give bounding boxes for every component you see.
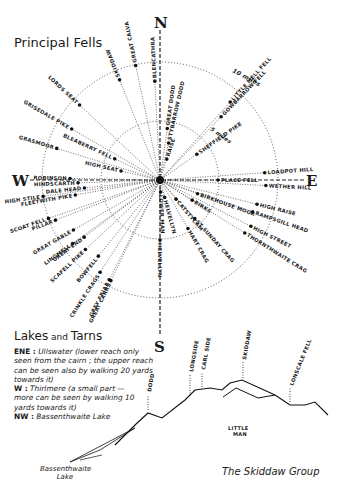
sight-line: [73, 180, 160, 243]
fell-summit-dot: [186, 227, 190, 231]
fell-label: BIRKS: [193, 199, 212, 214]
lake-entry-nw: NW : Bassenthwaite Lake: [14, 412, 154, 421]
sight-line: [98, 180, 160, 256]
little-man-profile: [223, 388, 275, 398]
fell-summit-dot: [158, 238, 162, 242]
sight-line: [84, 180, 160, 237]
fell-summit-dot: [119, 169, 123, 173]
fell-summit-dot: [190, 198, 194, 202]
fell-summit-dot: [84, 248, 88, 252]
summit-cairn: [156, 176, 164, 184]
fell-label: GRASMOOR: [18, 134, 55, 150]
profile-peak-skiddaw: SKIDDAW: [241, 330, 252, 360]
fell-summit-dot: [159, 190, 163, 194]
compass-north: N: [154, 14, 168, 32]
fell-label: ROBINSON: [33, 175, 67, 182]
fell-summit-dot: [76, 181, 80, 185]
fell-summit-dot: [196, 192, 200, 196]
bassenthwaite-lake-arrow: [80, 455, 102, 460]
bassenthwaite-lake-label: Bassenthwaite Lake: [40, 465, 90, 481]
fell-summit-dot: [255, 202, 259, 206]
lake-entry-ene: ENE : Ullswater (lower reach only seen f…: [14, 347, 154, 384]
sight-line: [75, 180, 160, 195]
sight-line: [111, 180, 160, 281]
fell-label: ST SUNDAY CRAG: [195, 219, 236, 264]
fell-label: BLEABERRY FELL: [62, 132, 113, 160]
fell-summit-dot: [174, 197, 178, 201]
fell-summit-dot: [68, 177, 72, 181]
fell-summit-dot: [54, 218, 58, 222]
fell-summit-dot: [216, 178, 220, 182]
compass-west: W: [11, 172, 30, 190]
fell-diagram: SKIDDAWGREAT CALVABLENCATHRAGREAT DODDST…: [0, 0, 351, 499]
sight-line: [136, 66, 160, 180]
fell-summit-dot: [251, 210, 255, 214]
fell-label: HIGH SEAT: [85, 160, 119, 173]
fell-label: GREAT CALVA: [123, 21, 138, 63]
fell-summit-dot: [153, 79, 157, 83]
fell-label: SKIDDAW: [104, 48, 121, 78]
fell-summit-dot: [134, 64, 138, 68]
fell-label: PLACE FELL: [221, 177, 258, 183]
fell-summit-dot: [74, 193, 78, 197]
sight-line: [120, 80, 160, 180]
profile-peak-lonscale-fell: LONSCALE FELL: [288, 338, 312, 387]
fell-summit-dot: [82, 235, 86, 239]
sight-line: [155, 81, 160, 180]
profile-peak-longside: LONGSIDE: [188, 339, 200, 372]
fell-summit-dot: [78, 103, 82, 107]
compass-south: S: [154, 338, 165, 356]
page-title: Principal Fells: [14, 35, 103, 50]
fell-summit-dot: [264, 184, 268, 188]
fell-summit-dot: [113, 157, 117, 161]
fell-summit-dot: [72, 228, 76, 232]
fell-summit-dot: [107, 278, 111, 282]
bassenthwaite-lake-shape: [70, 428, 135, 462]
sight-line: [85, 180, 160, 250]
fell-summit-dot: [193, 217, 197, 221]
fell-summit-dot: [55, 147, 59, 151]
fell-summit-dot: [71, 242, 75, 246]
fell-label: GRISEDALE PIKE: [23, 99, 71, 130]
fell-summit-dot: [243, 231, 247, 235]
lake-entry-w: W : Thirlmere (a small part — more can b…: [14, 384, 144, 412]
fell-summit-dot: [118, 78, 122, 82]
profile-peak-carl-side: CARL SIDE: [200, 336, 212, 370]
lakes-heading: Lakes and Tarns: [14, 329, 102, 343]
profile-title: The Skiddaw Group: [222, 466, 320, 477]
fell-label: BIRKHOUSE MOOR: [199, 192, 256, 218]
fell-summit-dot: [195, 152, 199, 156]
fell-label: LOWER MAN: [158, 195, 166, 234]
fell-summit-dot: [70, 127, 74, 131]
sight-line: [80, 105, 160, 180]
fell-summit-dot: [263, 171, 267, 175]
fell-label: HELVELLYN: [157, 243, 163, 278]
compass-east: E: [306, 172, 317, 190]
fell-summit-dot: [83, 186, 87, 190]
fell-summit-dot: [165, 157, 169, 161]
fell-label: LORDS SEAT: [47, 74, 80, 105]
sight-line: [121, 171, 160, 180]
profile-little-man-2: MAN: [233, 431, 247, 437]
fell-summit-dot: [219, 115, 223, 119]
fell-label: BLENCATHRA: [149, 37, 157, 79]
fell-summit-dot: [98, 270, 102, 274]
fell-summit-dot: [97, 254, 101, 258]
fell-summit-dot: [249, 225, 253, 229]
sight-line: [100, 180, 160, 272]
fell-summit-dot: [41, 195, 45, 199]
